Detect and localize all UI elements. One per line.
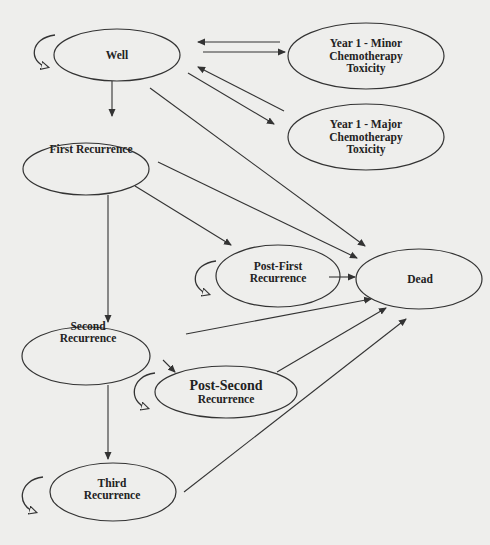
label-post-second-recurrence: Post-Second Recurrence xyxy=(160,377,292,407)
self-loop-third-icon xyxy=(22,477,43,512)
self-loop-post-first-icon xyxy=(195,261,216,294)
edge-well-to-major xyxy=(188,73,274,124)
label-post-first-recurrence: Post-First Recurrence xyxy=(220,258,336,286)
label-major-toxicity: Year 1 - Major Chemotherapy Toxicity xyxy=(288,117,444,157)
edge-first-to-postfirst xyxy=(135,186,231,245)
label-third-recurrence: Third Recurrence xyxy=(52,475,172,503)
edge-postsecond-to-dead xyxy=(277,308,386,372)
edge-second-to-dead xyxy=(186,299,371,334)
label-minor-toxicity: Year 1 - Minor Chemotherapy Toxicity xyxy=(288,36,444,76)
label-dead: Dead xyxy=(360,270,480,288)
self-loop-post-second-icon xyxy=(134,373,155,408)
edge-second-to-postsecond xyxy=(163,360,175,372)
markov-state-diagram: Well Year 1 - Minor Chemotherapy Toxicit… xyxy=(0,0,490,545)
label-second-recurrence: Second Recurrence xyxy=(26,318,150,346)
edge-first-to-dead xyxy=(158,162,357,258)
label-first-recurrence: First Recurrence xyxy=(26,140,156,158)
self-loop-well-icon xyxy=(34,35,55,67)
label-well: Well xyxy=(57,45,177,65)
